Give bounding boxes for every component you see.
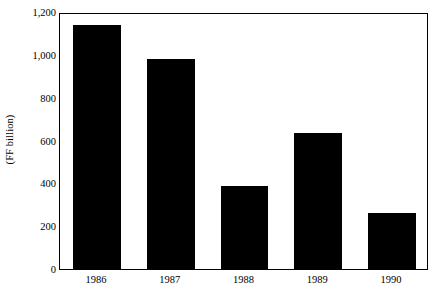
y-axis-tick-label: 400 <box>18 179 56 190</box>
y-axis-tick-label: 1,200 <box>18 8 56 19</box>
bar-chart: (FF billion) 02004006008001,0001,200 198… <box>0 0 440 301</box>
x-axis-tick-labels: 19861987198819891990 <box>59 274 428 294</box>
bar-1990 <box>368 213 416 269</box>
y-axis-tick-label: 1,000 <box>18 51 56 62</box>
bar-1988 <box>221 186 269 269</box>
bar-1987 <box>147 59 195 269</box>
y-axis-title-label: (FF billion) <box>5 114 16 164</box>
y-axis-tick-label: 600 <box>18 136 56 147</box>
x-axis-tick-label: 1987 <box>159 274 180 286</box>
x-axis-tick-label: 1990 <box>381 274 402 286</box>
y-axis-tick-label: 200 <box>18 222 56 233</box>
bar-1989 <box>294 133 342 269</box>
y-axis-title: (FF billion) <box>0 0 20 278</box>
bar-1986 <box>73 25 121 269</box>
bars-container <box>60 14 427 269</box>
x-axis-tick-label: 1989 <box>307 274 328 286</box>
y-axis-tick-label: 800 <box>18 93 56 104</box>
x-axis-tick-label: 1986 <box>85 274 106 286</box>
y-axis-tick-label: 0 <box>18 265 56 276</box>
plot-area <box>59 13 428 270</box>
y-axis-tick-labels: 02004006008001,0001,200 <box>18 0 56 301</box>
x-axis-tick-label: 1988 <box>233 274 254 286</box>
